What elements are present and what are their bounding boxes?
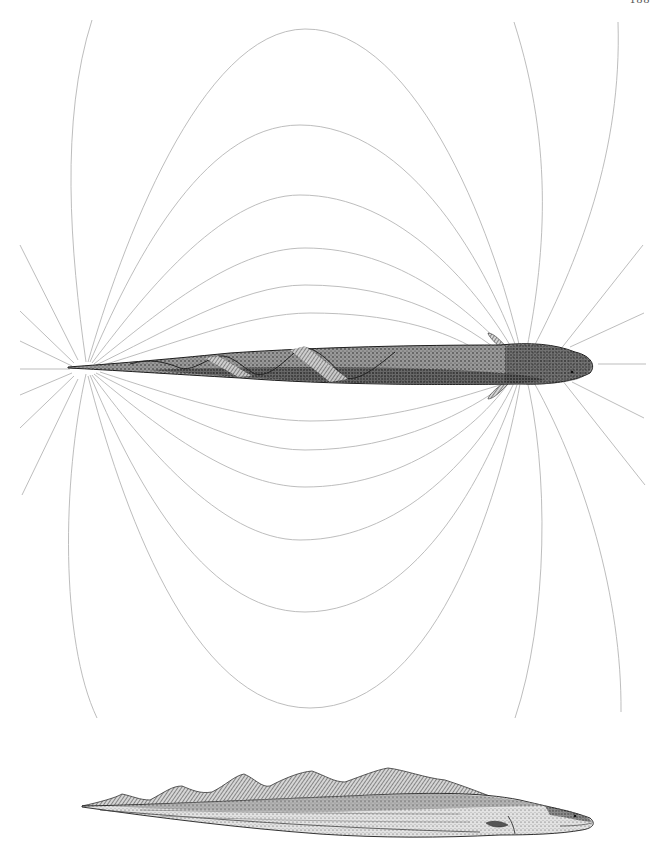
plate-illustration (0, 0, 664, 868)
upper-eel-dorsal-view (68, 333, 593, 399)
lower-eel-lateral-view (82, 768, 593, 837)
